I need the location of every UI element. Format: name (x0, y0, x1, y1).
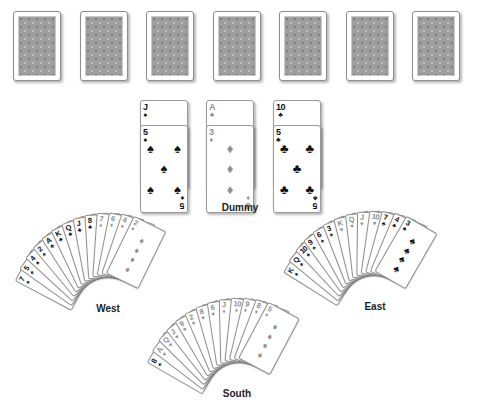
diamond-icon: ♦ (99, 222, 103, 228)
seat-label-west: West (68, 303, 148, 314)
card-back-pattern (151, 16, 189, 76)
club-icon: ♣ (276, 111, 285, 118)
face-down-card[interactable] (146, 11, 194, 81)
heart-icon: ♥ (211, 311, 216, 317)
card-pip-row: ♠♠ (147, 183, 181, 196)
card-back-pattern (417, 16, 455, 76)
card-corner-index: 7♠ (18, 276, 31, 285)
heart-icon: ♥ (174, 333, 181, 340)
spade-icon: ♠ (297, 260, 305, 268)
diamond-icon: ♦ (109, 222, 114, 229)
spade-icon: ♠ (28, 269, 35, 275)
club-icon: ♣ (305, 142, 314, 155)
face-down-card[interactable] (346, 11, 394, 81)
spade-icon: ♠ (311, 244, 317, 251)
dummy-label: Dummy (200, 202, 280, 213)
face-down-card[interactable] (13, 11, 61, 81)
spade-icon: ♠ (147, 183, 154, 196)
card-pip-row: ♣♣ (280, 142, 314, 155)
card-back-pattern (351, 16, 389, 76)
card-corner-index: J♥ (360, 214, 364, 227)
spade-icon: ♠ (147, 142, 154, 155)
card-corner-index: 8♠ (150, 358, 163, 368)
spade-icon: ♠ (156, 361, 163, 367)
diamond-icon: ♦ (222, 308, 226, 314)
card-pip-row: ♠♠ (147, 142, 181, 155)
card-pip-area: ♦♦♦ (213, 138, 247, 200)
spade-icon: ♠ (328, 231, 334, 238)
card-corner-index: 8♦ (254, 302, 262, 315)
heart-icon: ♥ (161, 350, 169, 358)
card-corner-index: 7♦ (99, 215, 104, 228)
card-rank: 5 (313, 201, 318, 210)
heart-icon: ♥ (201, 314, 206, 321)
card-corner-index: 6♥ (210, 304, 216, 317)
card-corner-index: J♣ (76, 220, 82, 234)
card-corner-index: 2♥ (188, 313, 197, 326)
seat-label-east: East (335, 301, 415, 312)
spade-icon: ♠ (292, 270, 300, 277)
card-pip-row: ♦ (213, 142, 247, 155)
club-icon: ♣ (381, 220, 386, 227)
diamond-icon: ♦ (271, 322, 279, 332)
card-corner-index: 8♣ (88, 217, 93, 230)
card-pip-row: ♦ (213, 162, 247, 175)
card-rank: 5 (180, 201, 185, 210)
card-corner-index: 4♦ (120, 216, 128, 229)
face-down-card[interactable] (80, 11, 128, 81)
spade-icon: ♠ (24, 279, 31, 285)
card-corner-index: 8♥ (199, 308, 206, 322)
spade-icon: ♠ (143, 111, 148, 118)
club-icon: ♣ (391, 264, 401, 275)
diamond-icon: ♦ (123, 265, 131, 275)
card-corner-index: 9♥ (178, 320, 188, 333)
diamond-icon: ♦ (227, 162, 234, 175)
club-icon: ♣ (57, 236, 64, 244)
diamond-icon: ♦ (120, 223, 125, 230)
seat-label-south: South (197, 388, 277, 399)
diamond-icon: ♦ (243, 307, 248, 314)
club-icon: ♣ (280, 183, 289, 196)
heart-icon: ♥ (338, 226, 344, 233)
card-corner-index: J♦ (222, 301, 226, 314)
card-pip-area: ♠♠♠♠♠ (147, 138, 181, 200)
club-icon: ♣ (209, 111, 215, 118)
club-icon: ♣ (280, 142, 289, 155)
card-pip-row: ♠ (147, 162, 181, 175)
diamond-icon: ♦ (254, 308, 260, 315)
club-icon: ♣ (48, 242, 55, 250)
heart-icon: ♥ (182, 326, 188, 333)
card-corner-index-bottom: 5♣ (313, 195, 318, 210)
heart-icon: ♥ (360, 221, 364, 227)
face-down-card[interactable] (213, 11, 261, 81)
card-corner-index: K♥ (337, 219, 345, 233)
card-back-pattern (218, 16, 256, 76)
spade-icon: ♠ (41, 251, 48, 258)
card-back-pattern (18, 16, 56, 76)
card-corner-index: Q♥ (348, 216, 355, 230)
card-corner-index: 9♦ (243, 300, 250, 313)
face-down-card[interactable] (412, 11, 460, 81)
card-corner-index: Q♣ (65, 224, 74, 238)
card-pip-row: ♦ (213, 183, 247, 196)
club-icon: ♣ (313, 195, 318, 202)
playing-card[interactable]: 3♦♦♦♦3♦ (206, 125, 254, 213)
face-down-card[interactable] (279, 11, 327, 81)
diamond-icon: ♦ (227, 183, 234, 196)
card-pip-row: ♣♣ (280, 183, 314, 196)
card-corner-index: 10♣ (276, 103, 285, 118)
club-icon: ♣ (67, 230, 74, 237)
spade-icon: ♠ (319, 237, 325, 244)
playing-card[interactable]: 5♠♠♠♠♠♠5♠ (140, 125, 188, 213)
card-back-pattern (284, 16, 322, 76)
diamond-icon: ♦ (138, 236, 146, 246)
playing-card[interactable]: 5♣♣♣♣♣♣5♣ (273, 125, 321, 213)
heart-icon: ♥ (191, 320, 197, 327)
club-icon: ♣ (293, 162, 302, 175)
bridge-table: J♠5♠♠♠♠♠♠5♠A♣3♦♦♦♦3♦10♣5♣♣♣♣♣♣5♣ Dummy 7… (0, 0, 478, 419)
card-corner-index: 7♣ (381, 213, 388, 227)
card-corner-index-bottom: 5♠ (180, 195, 185, 210)
heart-icon: ♥ (167, 341, 175, 349)
club-icon: ♣ (391, 222, 397, 229)
club-icon: ♣ (77, 227, 82, 234)
